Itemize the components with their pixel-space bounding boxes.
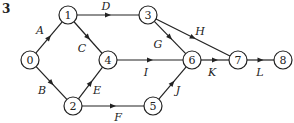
node-label: 4 (105, 54, 112, 67)
edge-label: D (101, 0, 111, 13)
edge-label: J (174, 84, 181, 97)
edge-label: F (113, 111, 122, 123)
network-diagram: 3 ABCDEFGHIJKL012345678 (0, 0, 294, 123)
edge-label: A (35, 24, 44, 37)
arrow-icon (147, 58, 153, 63)
arrow-icon (105, 13, 111, 18)
edge-label: E (92, 84, 101, 97)
edge-label: I (143, 66, 149, 79)
node-label: 1 (65, 9, 72, 22)
node-label: 6 (189, 54, 196, 67)
edge-label: K (207, 66, 217, 79)
node-label: 5 (150, 100, 157, 113)
arrow-icon (110, 104, 116, 109)
node-label: 0 (27, 54, 34, 67)
arrow-icon (258, 58, 264, 63)
edge-label: C (78, 42, 87, 55)
arrow-icon (212, 58, 218, 63)
diagram-canvas: ABCDEFGHIJKL012345678 (0, 0, 294, 123)
node-label: 2 (70, 100, 77, 113)
node-label: 3 (145, 9, 152, 22)
edge-label: G (154, 38, 163, 51)
edge-label: H (194, 25, 205, 38)
node-label: 7 (235, 54, 242, 67)
edge-label: B (37, 84, 46, 97)
node-label: 8 (280, 54, 287, 67)
edge-label: L (255, 66, 263, 79)
